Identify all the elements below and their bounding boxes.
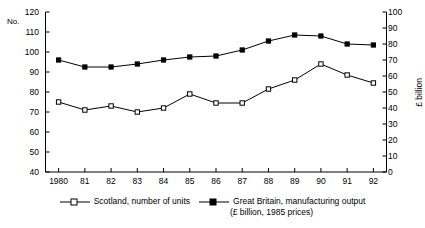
data-point-great-britain-81 (83, 65, 87, 69)
series-layer (56, 33, 375, 114)
data-point-great-britain-83 (135, 62, 139, 66)
data-point-scotland-85 (188, 92, 192, 96)
data-point-scotland-1980 (56, 100, 60, 104)
data-point-scotland-81 (83, 108, 87, 112)
data-point-scotland-89 (292, 78, 296, 82)
legend-sublabel-great-britain: (£ billion, 1985 prices) (230, 207, 313, 218)
plot-area (0, 0, 425, 228)
data-point-great-britain-1980 (57, 58, 61, 62)
data-point-great-britain-86 (214, 54, 218, 58)
data-point-scotland-91 (345, 73, 349, 77)
data-point-great-britain-87 (240, 48, 244, 52)
chart-container: No. £ billion 120110100908070605040 1009… (0, 0, 425, 228)
data-point-scotland-82 (109, 104, 113, 108)
legend-item-great-britain: Great Britain, manufacturing output (199, 196, 365, 207)
legend-marker-filled-square-icon (199, 197, 229, 207)
tick-marks (46, 12, 387, 172)
legend-row-primary: Scotland, number of units Great Britain,… (0, 196, 425, 207)
data-point-great-britain-89 (293, 33, 297, 37)
data-point-scotland-86 (214, 101, 218, 105)
data-point-great-britain-90 (319, 34, 323, 38)
data-point-scotland-87 (240, 101, 244, 105)
data-point-great-britain-82 (109, 65, 113, 69)
legend-label-great-britain: Great Britain, manufacturing output (233, 196, 365, 207)
data-point-great-britain-88 (266, 39, 270, 43)
data-point-scotland-84 (161, 106, 165, 110)
data-point-great-britain-92 (371, 43, 375, 47)
chart-legend: Scotland, number of units Great Britain,… (0, 196, 425, 218)
legend-label-scotland: Scotland, number of units (94, 196, 190, 207)
data-point-scotland-92 (371, 81, 375, 85)
data-point-scotland-83 (135, 110, 139, 114)
data-point-great-britain-85 (188, 55, 192, 59)
axis-lines (46, 12, 387, 172)
data-point-scotland-88 (266, 87, 270, 91)
data-point-great-britain-91 (345, 42, 349, 46)
legend-row-secondary: (£ billion, 1985 prices) (0, 207, 425, 218)
data-point-great-britain-84 (161, 58, 165, 62)
data-point-scotland-90 (319, 62, 323, 66)
legend-marker-open-square-icon (60, 197, 90, 207)
legend-item-scotland: Scotland, number of units (60, 196, 190, 207)
